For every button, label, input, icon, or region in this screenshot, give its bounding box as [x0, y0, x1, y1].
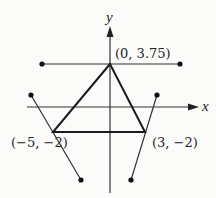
x-axis: x [27, 98, 209, 114]
vertex-label-apex: (0, 3.75) [115, 46, 171, 61]
y-axis: y [104, 9, 114, 193]
endpoint-dot [154, 92, 159, 97]
x-axis-label: x [201, 98, 209, 114]
endpoint-dot [39, 61, 44, 66]
y-axis-arrow-icon [107, 26, 114, 37]
triangle [53, 64, 145, 132]
endpoint-dot [177, 61, 182, 66]
x-axis-arrow-icon [188, 104, 199, 111]
vertex-label-right: (3, −2) [152, 135, 198, 150]
endpoint-dot [78, 177, 83, 182]
y-axis-label: y [104, 9, 113, 25]
endpoint-dot [128, 177, 133, 182]
coordinate-diagram: y x (0, 3.75) (−5, −2) (3, −2) [0, 0, 216, 198]
endpoint-dot [28, 92, 33, 97]
vertex-label-left: (−5, −2) [11, 135, 68, 150]
